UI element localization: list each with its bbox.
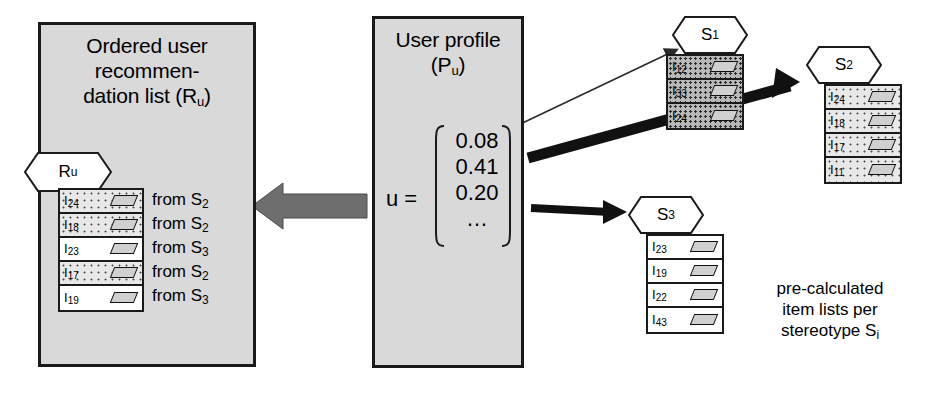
item-glyph-icon bbox=[110, 243, 138, 254]
stereotype-s3-item-row: I19 bbox=[648, 260, 722, 284]
stereotype-s2-item-label: I24 bbox=[830, 89, 845, 105]
recommendation-item-label: I24 bbox=[64, 193, 79, 209]
item-glyph-icon bbox=[710, 110, 738, 121]
profile-title-line-2: (Pu) bbox=[375, 52, 521, 83]
caption-line-1: pre-calculated bbox=[742, 278, 918, 299]
recommendation-item-row: I18 bbox=[60, 214, 142, 238]
vector-value: 0.08 bbox=[434, 128, 520, 154]
recommendation-title-line-3: dation list (Ru) bbox=[41, 83, 253, 114]
stereotype-s2-item-row: I17 bbox=[826, 134, 900, 158]
recommendation-item-row: I17 bbox=[60, 262, 142, 286]
stereotype-s3-item-label: I19 bbox=[652, 263, 667, 279]
item-glyph-icon bbox=[110, 219, 138, 230]
stereotype-s1-item-row: I24 bbox=[668, 104, 742, 128]
vector-value: … bbox=[434, 206, 520, 232]
profile-panel-title: User profile (Pu) bbox=[375, 27, 521, 83]
stereotype-s1-item-label: I33 bbox=[672, 83, 687, 99]
recommendation-item-list: I24I18I23I17I19 bbox=[58, 188, 144, 312]
recommendation-title-line-1: Ordered user bbox=[41, 33, 253, 58]
stereotype-s2-item-row: I24 bbox=[826, 86, 900, 110]
arrow-profile-to-s1 bbox=[512, 50, 676, 128]
hexagon-s2: S2 bbox=[806, 46, 882, 84]
diagram-canvas: Ordered user recommen- dation list (Ru) … bbox=[0, 0, 928, 395]
stereotype-s1-item-row: I12 bbox=[668, 56, 742, 80]
arrow-profile-to-s3-head bbox=[603, 200, 627, 224]
item-glyph-icon bbox=[868, 91, 896, 102]
recommendation-source-label: from S3 bbox=[152, 286, 209, 307]
vector-value: 0.41 bbox=[434, 154, 520, 180]
recommendation-panel-title: Ordered user recommen- dation list (Ru) bbox=[41, 33, 253, 114]
recommendation-item-row: I19 bbox=[60, 286, 142, 310]
profile-vector: 0.080.410.20… bbox=[430, 122, 516, 250]
caption-subscript: i bbox=[876, 328, 879, 342]
stereotype-s3-item-label: I43 bbox=[652, 312, 667, 328]
stereotype-s3-item-row: I22 bbox=[648, 284, 722, 308]
recommendation-source-label: from S3 bbox=[152, 238, 209, 259]
item-glyph-icon bbox=[690, 314, 718, 325]
recommendation-item-label: I19 bbox=[64, 290, 79, 306]
stereotype-s3-item-row: I23 bbox=[648, 236, 722, 260]
recommendation-item-label: I18 bbox=[64, 217, 79, 233]
recommendation-item-row: I23 bbox=[60, 238, 142, 262]
stereotype-s3-item-row: I43 bbox=[648, 308, 722, 332]
stereotype-s2-item-label: I18 bbox=[830, 113, 845, 129]
stereotype-s3-item-label: I22 bbox=[652, 287, 667, 303]
item-glyph-icon bbox=[690, 289, 718, 300]
item-glyph-icon bbox=[868, 139, 896, 150]
stereotype-s2-item-label: I17 bbox=[830, 137, 845, 153]
item-glyph-icon bbox=[690, 241, 718, 252]
stereotype-s1-item-list: I12I33I24 bbox=[666, 54, 744, 130]
stereotype-s2-item-row: I18 bbox=[826, 110, 900, 134]
stereotype-s2-item-list: I24I18I17I11 bbox=[824, 84, 902, 184]
recommendation-title-line-2: recommen- bbox=[41, 58, 253, 83]
item-glyph-icon bbox=[110, 267, 138, 278]
item-glyph-icon bbox=[110, 195, 138, 206]
item-glyph-icon bbox=[868, 164, 896, 175]
stereotype-s1-item-label: I12 bbox=[672, 59, 687, 75]
recommendation-item-row: I24 bbox=[60, 190, 142, 214]
arrow-profile-to-s2 bbox=[528, 86, 790, 158]
profile-vector-values: 0.080.410.20… bbox=[430, 128, 524, 232]
vector-value: 0.20 bbox=[434, 180, 520, 206]
item-glyph-icon bbox=[868, 115, 896, 126]
item-glyph-icon bbox=[690, 265, 718, 276]
recommendation-source-label: from S2 bbox=[152, 190, 209, 211]
stereotype-s3-item-label: I23 bbox=[652, 239, 667, 255]
hexagon-s1: S1 bbox=[672, 16, 748, 54]
stereotype-caption: pre-calculated item lists per stereotype… bbox=[742, 278, 918, 346]
arrow-profile-to-s2-head bbox=[772, 68, 800, 98]
recommendation-source-label: from S2 bbox=[152, 262, 209, 283]
item-glyph-icon bbox=[110, 292, 138, 303]
profile-title-line-1: User profile bbox=[375, 27, 521, 52]
recommendation-item-label: I17 bbox=[64, 265, 79, 281]
profile-vector-equals-label: u = bbox=[386, 186, 417, 212]
item-glyph-icon bbox=[710, 85, 738, 96]
hexagon-ru: Ru bbox=[24, 152, 112, 192]
recommendation-item-label: I23 bbox=[64, 241, 79, 257]
arrow-profile-to-s3 bbox=[531, 208, 610, 212]
item-glyph-icon bbox=[710, 61, 738, 72]
hexagon-s3: S3 bbox=[628, 196, 704, 234]
stereotype-s2-item-row: I11 bbox=[826, 158, 900, 182]
stereotype-s1-item-label: I24 bbox=[672, 108, 687, 124]
caption-line-3: stereotype Si bbox=[742, 320, 918, 346]
arrow-result-to-recommendations bbox=[252, 183, 367, 229]
stereotype-s3-item-list: I23I19I22I43 bbox=[646, 234, 724, 334]
recommendation-source-label: from S2 bbox=[152, 214, 209, 235]
stereotype-s2-item-label: I11 bbox=[830, 162, 844, 178]
caption-line-2: item lists per bbox=[742, 299, 918, 320]
stereotype-s1-item-row: I33 bbox=[668, 80, 742, 104]
